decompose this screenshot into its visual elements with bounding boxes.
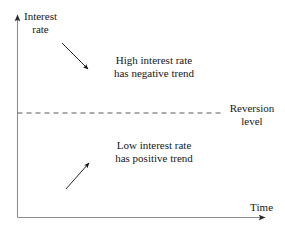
annotation-high-interest-rate: High interest rate has negative trend — [94, 54, 214, 79]
negative-trend-arrow — [62, 43, 88, 69]
reversion-level-label-line2: level — [226, 115, 278, 128]
y-axis-label: Interest rate — [24, 10, 57, 35]
reversion-level-label-line1: Reversion — [226, 102, 278, 115]
annotation-high-line1: High interest rate — [94, 54, 214, 67]
y-axis-label-line2: rate — [24, 23, 57, 36]
y-axis-label-line1: Interest — [24, 10, 57, 23]
annotation-low-interest-rate: Low interest rate has positive trend — [94, 139, 214, 164]
annotation-low-line1: Low interest rate — [94, 139, 214, 152]
reversion-level-label: Reversion level — [226, 102, 278, 127]
annotation-low-line2: has positive trend — [94, 152, 214, 165]
annotation-high-line2: has negative trend — [94, 67, 214, 80]
positive-trend-arrow — [66, 163, 89, 189]
x-axis-label: Time — [250, 201, 273, 213]
interest-rate-reversion-diagram: Interest rate Time High interest rate ha… — [0, 0, 285, 231]
